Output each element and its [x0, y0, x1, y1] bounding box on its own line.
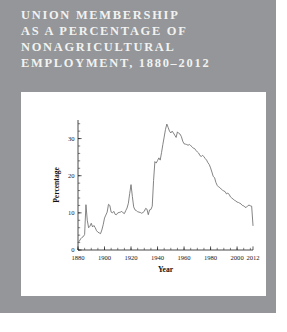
- y-tick-label: 10: [68, 209, 75, 216]
- chart-card: 18801900192019401960198020002012 0102030…: [21, 92, 266, 296]
- x-axis-tick-labels: 18801900192019401960198020002012: [71, 254, 259, 261]
- data-series-line: [78, 124, 253, 242]
- x-tick-label: 1880: [71, 254, 85, 261]
- x-tick-label: 1940: [151, 254, 165, 261]
- page-title: UNION MEMBERSHIP AS A PERCENTAGE OF NONA…: [21, 7, 261, 71]
- x-axis-title: Year: [158, 265, 174, 274]
- y-tick-label: 30: [68, 135, 75, 142]
- x-tick-label: 1920: [124, 254, 138, 261]
- x-tick-label: 2012: [246, 254, 259, 261]
- line-chart: 18801900192019401960198020002012 0102030…: [21, 92, 266, 296]
- title-line-2: AS A PERCENTAGE OF: [21, 23, 261, 39]
- y-axis-major-ticks: [78, 139, 82, 250]
- x-tick-label: 1980: [204, 254, 218, 261]
- y-tick-label: 20: [68, 172, 75, 179]
- title-line-4: EMPLOYMENT, 1880–2012: [21, 55, 261, 71]
- y-axis-title: Percentage: [52, 167, 61, 203]
- chart-svg: 18801900192019401960198020002012 0102030…: [21, 92, 266, 296]
- page-root: UNION MEMBERSHIP AS A PERCENTAGE OF NONA…: [0, 0, 287, 332]
- title-line-1: UNION MEMBERSHIP: [21, 7, 261, 23]
- x-tick-label: 2000: [230, 254, 244, 261]
- title-line-3: NONAGRICULTURAL: [21, 39, 261, 55]
- y-axis-tick-labels: 0102030: [68, 135, 75, 253]
- x-axis-major-ticks: [78, 246, 253, 250]
- y-tick-label: 0: [71, 246, 75, 253]
- x-tick-label: 1960: [177, 254, 191, 261]
- x-tick-label: 1900: [98, 254, 112, 261]
